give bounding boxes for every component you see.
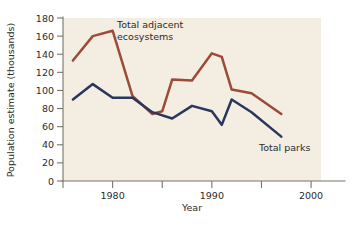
y-axis-tick-labels: 020406080100120140160180 xyxy=(36,13,54,187)
y-tick-label: 20 xyxy=(42,157,54,168)
y-axis-ticks xyxy=(57,18,63,181)
plot-area-background xyxy=(63,18,321,181)
chart-figure: 020406080100120140160180 198019902000 To… xyxy=(0,0,353,227)
y-tick-label: 0 xyxy=(48,176,54,187)
annotation-total-parks: Total parks xyxy=(258,142,310,153)
x-axis-tick-labels: 198019902000 xyxy=(101,190,324,201)
y-tick-label: 100 xyxy=(36,85,54,96)
x-tick-label: 1980 xyxy=(101,190,125,201)
x-tick-label: 2000 xyxy=(299,190,323,201)
x-axis-title: Year xyxy=(181,202,202,213)
annotation-ecosystems-line2: ecosystems xyxy=(117,31,173,42)
y-axis-title: Population estimate (thousands) xyxy=(5,23,16,178)
y-tick-label: 40 xyxy=(42,139,54,150)
x-axis-ticks xyxy=(63,181,311,188)
y-tick-label: 180 xyxy=(36,13,54,24)
y-tick-label: 160 xyxy=(36,31,54,42)
annotation-ecosystems-line1: Total adjacent xyxy=(116,19,184,30)
y-tick-label: 60 xyxy=(42,121,54,132)
y-tick-label: 140 xyxy=(36,49,54,60)
line-chart: 020406080100120140160180 198019902000 To… xyxy=(0,0,353,227)
y-tick-label: 120 xyxy=(36,67,54,78)
x-tick-label: 1990 xyxy=(200,190,224,201)
y-tick-label: 80 xyxy=(42,103,54,114)
